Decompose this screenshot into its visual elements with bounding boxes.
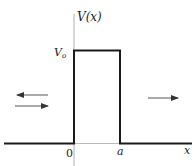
y-axis-label: V(x): [77, 10, 102, 24]
x-axis-label: x: [184, 144, 191, 157]
potential-curve: [4, 51, 192, 144]
barrier-height-label: Vo: [54, 46, 66, 60]
origin-label: 0: [66, 147, 73, 160]
barrier-end-label: a: [117, 145, 124, 158]
barrier-height-subscript: o: [62, 52, 66, 60]
potential-barrier-diagram: V(x) Vo 0 a x: [0, 0, 196, 166]
